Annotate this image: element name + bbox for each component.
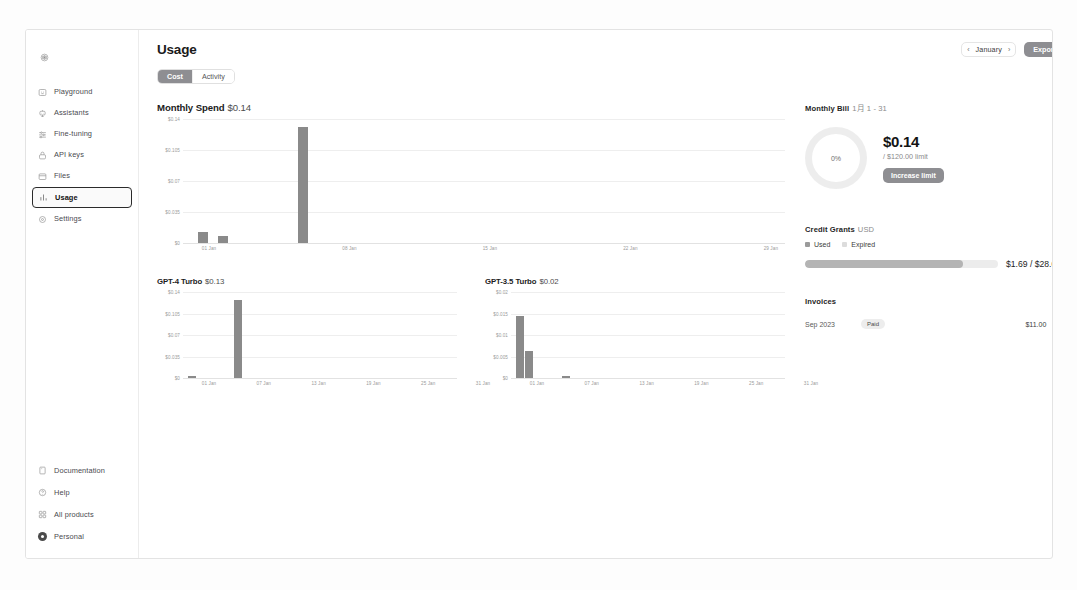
- sidebar-item-help[interactable]: Help: [32, 483, 132, 502]
- sidebar-item-settings[interactable]: Settings: [32, 209, 132, 229]
- screenshot-root: Playground Assistants: [0, 0, 1077, 590]
- chart-bar[interactable]: [298, 127, 308, 243]
- sidebar-item-files[interactable]: Files: [32, 166, 132, 186]
- charts-area: Monthly Spend$0.14 $0.14$0.105$0.07$0.03…: [157, 102, 785, 390]
- gridline: [183, 243, 785, 244]
- gpt35-turbo-chart: GPT-3.5 Turbo$0.02 $0.02$0.015$0.01$0.00…: [485, 277, 785, 390]
- tab-cost[interactable]: Cost: [158, 70, 193, 83]
- chart-bar[interactable]: [188, 376, 196, 378]
- chart-bar[interactable]: [234, 300, 242, 378]
- chevron-left-icon[interactable]: ‹: [965, 46, 971, 53]
- monthly-bill-summary: 0% $0.14 / $120.00 limit Increase limit: [805, 127, 1053, 189]
- sidebar-spacer: [26, 229, 138, 461]
- chart-bars: [183, 292, 457, 378]
- x-axis-tick-label: 01 Jan: [530, 381, 544, 386]
- y-axis-tick-label: $0: [503, 376, 508, 381]
- tab-activity[interactable]: Activity: [193, 70, 234, 83]
- sidebar-item-all-products[interactable]: All products: [32, 505, 132, 524]
- invoices-section: Invoices Sep 2023 Paid $11.00 ›: [805, 297, 1053, 329]
- x-axis-tick-label: 22 Jan: [623, 246, 637, 251]
- usage-percent-label: 0%: [805, 127, 867, 189]
- credit-amount: $1.69 / $28.00: [1006, 259, 1053, 269]
- usage-donut-chart: 0%: [805, 127, 867, 189]
- credit-grants-section: Credit GrantsUSD Used Expired: [805, 225, 1053, 269]
- sidebar-item-label: API keys: [54, 151, 84, 158]
- credit-grants-legend: Used Expired: [805, 241, 1053, 248]
- export-button[interactable]: Export: [1024, 42, 1053, 57]
- x-axis-tick-label: 29 Jan: [764, 246, 778, 251]
- legend-item-expired: Expired: [842, 241, 875, 248]
- y-axis-tick-label: $0.02: [496, 290, 508, 295]
- y-axis-labels: $0.02$0.015$0.01$0.005$0: [485, 292, 511, 378]
- fine-tuning-icon: [38, 130, 47, 139]
- month-selector[interactable]: ‹ January ›: [961, 42, 1016, 57]
- legend-swatch-icon: [842, 242, 847, 247]
- y-axis-tick-label: $0: [175, 241, 180, 246]
- month-label: January: [976, 45, 1002, 54]
- chart-title-amount: $0.02: [539, 277, 558, 286]
- sidebar-item-label: Assistants: [54, 109, 89, 116]
- chart-bars: [183, 119, 785, 243]
- x-axis-tick-label: 08 Jan: [342, 246, 356, 251]
- chart-bar[interactable]: [198, 232, 208, 243]
- sidebar-item-assistants[interactable]: Assistants: [32, 103, 132, 123]
- monthly-bill-title: Monthly Bill: [805, 104, 849, 113]
- sidebar-item-usage[interactable]: Usage: [32, 187, 132, 208]
- chart-bar[interactable]: [562, 376, 570, 378]
- legend-swatch-icon: [805, 242, 810, 247]
- sidebar-item-personal[interactable]: Personal: [32, 527, 132, 546]
- credit-progress-bar: [805, 260, 998, 268]
- y-axis-tick-label: $0.105: [165, 148, 180, 153]
- openai-logo-icon: [40, 53, 49, 62]
- y-axis-labels: $0.14$0.105$0.07$0.035$0: [157, 292, 183, 378]
- bill-info: $0.14 / $120.00 limit Increase limit: [883, 134, 944, 183]
- chart-bar[interactable]: [516, 316, 524, 378]
- y-axis-tick-label: $0.035: [165, 354, 180, 359]
- sidebar-item-label: Personal: [54, 533, 84, 540]
- chart-title: GPT-3.5 Turbo$0.02: [485, 277, 785, 286]
- sidebar-item-label: Files: [54, 172, 70, 179]
- legend-label: Used: [814, 241, 830, 248]
- invoice-date: Sep 2023: [805, 321, 849, 328]
- chart-bar[interactable]: [218, 236, 228, 243]
- gpt4-turbo-chart: GPT-4 Turbo$0.13 $0.14$0.105$0.07$0.035$…: [157, 277, 457, 390]
- main-area: Usage Cost Activity Monthly Spend$0.14 $…: [139, 30, 1053, 558]
- increase-limit-button[interactable]: Increase limit: [883, 168, 944, 183]
- y-axis-tick-label: $0.035: [165, 210, 180, 215]
- sidebar-item-label: Usage: [55, 194, 78, 201]
- help-icon: [38, 488, 47, 497]
- y-axis-tick-label: $0.07: [168, 333, 180, 338]
- main-content: Usage Cost Activity Monthly Spend$0.14 $…: [139, 42, 793, 558]
- app-window: Playground Assistants: [25, 29, 1053, 559]
- sidebar-item-documentation[interactable]: Documentation: [32, 461, 132, 480]
- invoices-heading: Invoices: [805, 297, 1053, 306]
- brand[interactable]: [26, 40, 138, 74]
- x-axis-tick-label: 07 Jan: [257, 381, 271, 386]
- model-charts-row: GPT-4 Turbo$0.13 $0.14$0.105$0.07$0.035$…: [157, 277, 785, 390]
- invoice-row[interactable]: Sep 2023 Paid $11.00 ›: [805, 319, 1053, 329]
- x-axis-tick-label: 01 Jan: [202, 381, 216, 386]
- legend-label: Expired: [851, 241, 875, 248]
- gridline: [183, 378, 457, 379]
- y-axis-tick-label: $0.105: [165, 311, 180, 316]
- sidebar-nav-bottom: Documentation Help: [26, 461, 138, 558]
- sidebar-item-playground[interactable]: Playground: [32, 82, 132, 102]
- sidebar-item-api-keys[interactable]: API keys: [32, 145, 132, 165]
- chart-plot: $0.14$0.105$0.07$0.035$0: [157, 119, 785, 243]
- credit-grants-heading: Credit GrantsUSD: [805, 225, 1053, 234]
- gear-icon: [38, 215, 47, 224]
- book-icon: [38, 466, 47, 475]
- playground-icon: [38, 88, 47, 97]
- x-axis-tick-label: 25 Jan: [749, 381, 763, 386]
- page-title: Usage: [157, 42, 785, 57]
- y-axis-tick-label: $0.07: [168, 179, 180, 184]
- chart-bar[interactable]: [525, 351, 533, 378]
- sidebar-item-fine-tuning[interactable]: Fine-tuning: [32, 124, 132, 144]
- chart-plot: $0.14$0.105$0.07$0.035$0: [157, 292, 457, 378]
- sidebar-item-label: All products: [54, 511, 94, 518]
- sidebar: Playground Assistants: [26, 30, 139, 558]
- chart-plot: $0.02$0.015$0.01$0.005$0: [485, 292, 785, 378]
- bar-chart-icon: [39, 193, 48, 202]
- chevron-right-icon[interactable]: ›: [1006, 46, 1012, 53]
- chart-title: GPT-4 Turbo$0.13: [157, 277, 457, 286]
